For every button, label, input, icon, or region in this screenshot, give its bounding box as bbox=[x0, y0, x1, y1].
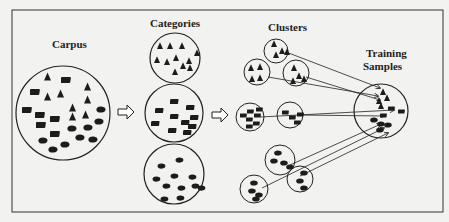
training-label-2: Samples bbox=[363, 60, 403, 72]
arrow-icon bbox=[212, 108, 228, 122]
cluster-items bbox=[239, 40, 307, 201]
pipeline-diagram: Carpus Categories Clusters Training Samp… bbox=[0, 0, 449, 222]
corpus-label: Carpus bbox=[52, 38, 88, 50]
corpus-circle bbox=[16, 66, 110, 160]
arrow-icon bbox=[118, 105, 134, 119]
clusters-label: Clusters bbox=[268, 21, 308, 33]
categories-label: Categories bbox=[150, 17, 201, 29]
category-beans bbox=[144, 144, 205, 204]
category-triangles bbox=[150, 33, 200, 83]
training-label-1: Training bbox=[366, 47, 407, 59]
category-rectangles bbox=[145, 84, 203, 142]
